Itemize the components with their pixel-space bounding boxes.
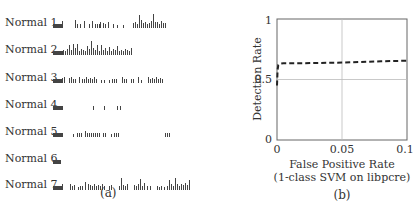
sequence-bar — [160, 78, 161, 83]
sequence-bar — [62, 106, 63, 110]
sequence-bar — [151, 21, 152, 28]
sequence-bar — [104, 106, 105, 110]
sequence-bar — [93, 106, 94, 110]
sequence-bar — [87, 46, 88, 55]
sequence-bar — [113, 24, 114, 28]
sequence-bar — [67, 49, 68, 55]
sequence-bar — [79, 51, 80, 55]
sequence-bar — [141, 20, 142, 28]
sequence-bar — [187, 185, 188, 190]
sequence-bar — [140, 179, 141, 190]
sequence-bar — [131, 48, 132, 55]
sequence-row-label: Normal 4 — [5, 99, 51, 110]
sequence-bar — [91, 133, 92, 137]
sequence-bar — [97, 45, 98, 55]
sequence-bar — [88, 79, 89, 83]
panel-b-roc-chart: 1 0.5 0 0 0.05 0.1 False Positive Rate (… — [215, 0, 416, 205]
sequence-bar — [71, 77, 72, 83]
sequence-bar — [167, 186, 168, 190]
roc-chart-svg: 1 0.5 0 0 0.05 0.1 False Positive Rate (… — [215, 0, 416, 205]
sequence-bar — [148, 77, 149, 83]
panel-a-bar-sequences: Normal 1Normal 2Normal 3Normal 4Normal 5… — [0, 0, 215, 205]
sequence-bar — [86, 77, 87, 83]
sequence-bars — [51, 96, 216, 110]
sequence-row: Normal 4 — [5, 96, 216, 110]
ytick-0: 0 — [265, 133, 272, 146]
sequence-bar — [150, 186, 151, 190]
sequence-bar — [135, 22, 136, 28]
sequence-bar — [105, 24, 106, 28]
sequence-bar — [155, 22, 156, 28]
sequence-bar — [121, 178, 122, 190]
sequence-bar — [183, 185, 184, 190]
sequence-bar — [159, 187, 160, 190]
sequence-bar — [88, 184, 89, 190]
sequence-row-label: Normal 7 — [5, 179, 51, 190]
sequence-bar — [85, 131, 86, 137]
sequence-bar — [129, 51, 130, 55]
sequence-bars — [51, 41, 216, 55]
sequence-bar — [165, 23, 166, 28]
sequence-bar — [77, 133, 78, 137]
sequence-bar — [97, 24, 98, 28]
sequence-bar — [127, 50, 128, 55]
sequence-bar — [75, 20, 76, 28]
sequence-bar — [73, 44, 74, 55]
sequence-bar — [98, 185, 99, 190]
sequence-bar — [189, 180, 190, 190]
sequence-bar — [75, 48, 76, 55]
sequence-bar — [93, 48, 94, 55]
sequence-bar — [157, 186, 158, 190]
sequence-bar — [119, 186, 120, 190]
sequence-bar — [72, 186, 73, 190]
xtick-0-1: 0.1 — [396, 143, 414, 156]
sequence-bar — [100, 22, 101, 28]
sequence-bar — [112, 79, 113, 83]
sequence-bar — [133, 23, 134, 28]
sequence-bar — [158, 79, 159, 83]
sequence-bar — [64, 77, 65, 83]
sequence-bar — [65, 51, 66, 55]
sequence-bar — [101, 80, 102, 83]
sequence-bar — [62, 21, 63, 28]
sequence-row: Normal 2 — [5, 41, 216, 55]
sequence-bar — [89, 24, 90, 28]
sequence-bar — [138, 77, 139, 83]
sequence-bar — [107, 51, 108, 55]
sequence-bars — [51, 69, 216, 83]
sequence-bar — [134, 185, 135, 190]
sequence-bar — [161, 21, 162, 28]
sequence-row-label: Normal 1 — [5, 17, 51, 28]
sequence-bar — [91, 41, 92, 55]
sequence-bar — [153, 14, 154, 28]
sequence-bar — [156, 77, 157, 83]
sequence-bar — [123, 25, 124, 28]
sequence-bar — [82, 79, 83, 83]
sequence-bar — [97, 133, 98, 137]
sequence-bar — [95, 133, 96, 137]
sequence-bar — [108, 22, 109, 28]
sequence-bar — [93, 133, 94, 137]
sequence-bar — [116, 79, 117, 83]
sequence-bar — [131, 79, 132, 83]
sequence-bar — [127, 184, 128, 190]
sequence-row: Normal 3 — [5, 69, 216, 83]
sequence-bar — [101, 45, 102, 55]
sequence-bar — [173, 186, 174, 190]
sequence-bar — [152, 78, 153, 83]
sequence-bar — [85, 182, 86, 190]
sequence-bar — [179, 186, 180, 190]
sequence-bar — [105, 48, 106, 55]
sequence-bar — [111, 51, 112, 55]
sequence-bar — [114, 133, 115, 137]
x-axis-sublabel: (1-class SVM on libpcre) — [274, 171, 411, 184]
sequence-bar — [95, 24, 96, 28]
sequence-bar — [175, 178, 176, 190]
sequence-bar — [73, 134, 74, 137]
sequence-bar — [157, 22, 158, 28]
panel-a-caption: (a) — [100, 186, 117, 200]
sequence-bar — [111, 134, 112, 137]
sequence-bar — [169, 133, 170, 137]
sequence-bar — [115, 50, 116, 55]
sequence-bar — [89, 133, 90, 137]
